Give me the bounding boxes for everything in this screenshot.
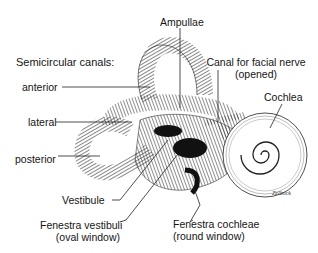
signature: Zelbock <box>272 190 291 196</box>
anterior-canal <box>138 45 205 100</box>
heading-semicircular-canals: Semicircular canals: <box>16 56 114 68</box>
label-facial-canal: Canal for facial nerve (opened) <box>196 56 316 80</box>
label-fenestra-vestibuli: Fenestra vestibuli (oval window) <box>40 219 120 243</box>
label-fenestra-cochleae-line2: (round window) <box>173 230 259 242</box>
label-facial-canal-line2: (opened) <box>196 68 316 80</box>
label-cochlea: Cochlea <box>264 91 303 103</box>
label-fenestra-vestibuli-line2: (oval window) <box>40 231 120 243</box>
oval-window-shape <box>173 138 207 158</box>
label-vestibule: Vestibule <box>62 194 105 206</box>
cochlea-shape: Zelbock <box>223 113 307 197</box>
label-facial-canal-line1: Canal for facial nerve <box>196 56 316 68</box>
label-fenestra-cochleae-line1: Fenestra cochleae <box>173 218 259 230</box>
label-posterior: posterior <box>15 153 56 165</box>
label-ampullae: Ampullae <box>160 16 204 28</box>
label-anterior: anterior <box>22 81 58 93</box>
label-fenestra-cochleae: Fenestra cochleae (round window) <box>173 218 259 242</box>
label-fenestra-vestibuli-line1: Fenestra vestibuli <box>40 219 120 231</box>
label-lateral: lateral <box>28 116 57 128</box>
